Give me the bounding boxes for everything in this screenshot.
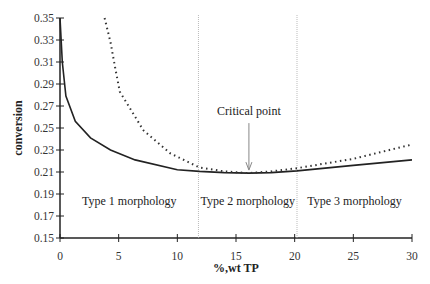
y-axis: 0.150.170.190.210.230.250.270.290.310.33…	[34, 12, 64, 244]
y-axis-title: conversion	[11, 100, 25, 156]
x-tick-label: 5	[116, 250, 122, 262]
x-tick-label: 25	[348, 250, 360, 262]
x-tick-label: 20	[289, 250, 301, 262]
solid-curve	[60, 18, 412, 173]
x-tick-label: 0	[57, 250, 63, 262]
critical-point-label: Critical point	[217, 104, 281, 118]
x-axis-title: %,wt TP	[213, 261, 259, 275]
region-label: Type 3 morphology	[307, 194, 401, 208]
y-tick-label: 0.15	[34, 232, 54, 244]
y-tick-label: 0.25	[34, 122, 54, 134]
y-tick-label: 0.19	[34, 188, 54, 200]
x-tick-label: 10	[172, 250, 184, 262]
y-tick-label: 0.33	[34, 34, 54, 46]
y-tick-label: 0.31	[34, 56, 54, 68]
dotted-curve	[105, 18, 412, 173]
y-tick-label: 0.17	[34, 210, 54, 222]
data-series	[60, 18, 412, 173]
line-chart: 0.150.170.190.210.230.250.270.290.310.33…	[0, 0, 430, 284]
x-tick-label: 30	[406, 250, 418, 262]
y-tick-label: 0.35	[34, 12, 54, 24]
region-label: Type 1 morphology	[82, 194, 176, 208]
region-label: Type 2 morphology	[200, 194, 294, 208]
y-tick-label: 0.29	[34, 78, 54, 90]
annotations: Critical pointType 1 morphologyType 2 mo…	[82, 104, 402, 208]
y-tick-label: 0.27	[34, 100, 54, 112]
y-tick-label: 0.21	[34, 166, 54, 178]
y-tick-label: 0.23	[34, 144, 54, 156]
x-axis: 051015202530	[57, 234, 418, 262]
